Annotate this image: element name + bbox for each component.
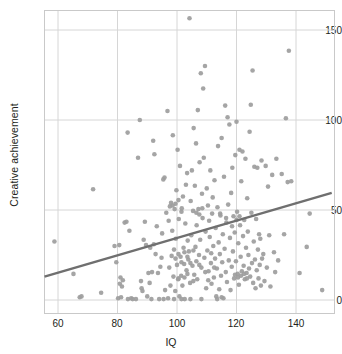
data-point (204, 186, 209, 191)
data-point (212, 265, 217, 270)
data-point (194, 259, 199, 264)
data-point (234, 259, 239, 264)
data-point (259, 158, 264, 163)
data-point (125, 130, 130, 135)
data-point (257, 232, 262, 237)
data-point (247, 129, 252, 134)
data-point (232, 230, 237, 235)
data-point (224, 216, 229, 221)
data-point (256, 247, 261, 252)
data-point (201, 156, 206, 161)
data-point (197, 253, 202, 258)
data-point (127, 228, 132, 233)
data-point (282, 232, 287, 237)
data-point (176, 252, 181, 257)
data-point (188, 297, 193, 302)
data-point (228, 236, 233, 241)
data-point (167, 265, 172, 270)
data-point (209, 251, 214, 256)
data-point (200, 216, 205, 221)
data-point (304, 245, 309, 250)
data-point (231, 249, 236, 254)
data-point (190, 168, 195, 173)
data-point (238, 223, 243, 228)
scatter-plot-figure: Creative achievement IQ 150 100 50 0 60 … (0, 0, 342, 354)
data-point (197, 160, 202, 165)
data-point (147, 281, 152, 286)
data-point (210, 195, 215, 200)
data-point (279, 172, 284, 177)
data-point (176, 276, 181, 281)
data-point (218, 211, 223, 216)
data-point (200, 192, 205, 197)
data-point (276, 258, 281, 263)
data-point (249, 210, 254, 215)
data-point (209, 261, 214, 266)
data-point (251, 239, 256, 244)
data-point (179, 260, 184, 265)
data-point (188, 261, 193, 266)
data-point (124, 219, 129, 224)
data-point (173, 256, 178, 261)
data-point (183, 221, 188, 226)
data-point (222, 246, 227, 251)
data-point (253, 257, 258, 262)
data-point (246, 229, 251, 234)
data-point (185, 272, 190, 277)
data-point (175, 263, 180, 268)
data-point (225, 280, 230, 285)
data-point (194, 141, 199, 146)
data-point (196, 108, 201, 113)
data-point (245, 196, 250, 201)
data-point (112, 244, 117, 249)
data-point (166, 219, 171, 224)
plot-border (45, 11, 335, 314)
data-point (216, 240, 221, 245)
data-point (159, 255, 164, 260)
gridlines (45, 11, 335, 314)
data-point (231, 214, 236, 219)
data-point (220, 260, 225, 265)
data-point (171, 133, 176, 138)
data-point (238, 254, 243, 259)
data-point (117, 243, 122, 248)
data-point (179, 210, 184, 215)
data-point (156, 271, 161, 276)
data-point (120, 284, 125, 289)
data-point (242, 272, 247, 277)
data-point (187, 16, 192, 21)
data-point (193, 183, 198, 188)
data-point (191, 279, 196, 284)
data-point (234, 120, 239, 125)
data-point (274, 156, 279, 161)
data-point (222, 174, 227, 179)
data-point (289, 179, 294, 184)
data-point (250, 68, 255, 73)
trend-line (45, 193, 332, 277)
data-point (163, 288, 168, 293)
data-point (254, 268, 259, 273)
data-point (149, 297, 154, 302)
data-point (134, 297, 139, 302)
data-point (212, 178, 217, 183)
data-point (287, 48, 292, 53)
data-point (99, 291, 104, 296)
data-point (241, 264, 246, 269)
data-point (121, 278, 126, 283)
data-point (243, 156, 248, 161)
data-point (150, 270, 155, 275)
data-point (240, 149, 245, 154)
data-point (185, 238, 190, 243)
data-point (256, 276, 261, 281)
data-point (225, 115, 230, 120)
data-point (157, 297, 162, 302)
data-point (233, 153, 238, 158)
data-point (188, 199, 193, 204)
data-point (170, 228, 175, 233)
data-point (237, 282, 242, 287)
data-point (212, 275, 217, 280)
data-point (210, 211, 215, 216)
data-point (219, 273, 224, 278)
data-point (235, 210, 240, 215)
data-point (141, 237, 146, 242)
